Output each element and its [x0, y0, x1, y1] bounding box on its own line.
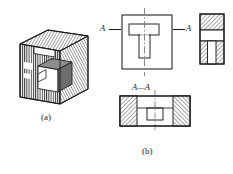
section-title-label: A—A	[132, 82, 150, 92]
front-view-tslot-head	[129, 24, 159, 35]
caption-ortho: (b)	[142, 146, 153, 156]
section-aa-right-wall	[173, 96, 190, 126]
iso-block	[20, 30, 88, 104]
isometric-view	[0, 0, 233, 174]
side-section-upper-band	[200, 14, 224, 30]
iso-highlight-b	[24, 73, 31, 79]
front-view	[122, 8, 172, 76]
side-section-view	[200, 14, 224, 64]
side-section-slot	[200, 30, 224, 41]
section-a-a-view	[120, 90, 190, 131]
section-marker-right-label: A	[186, 23, 191, 33]
section-marker-left-label: A	[100, 23, 105, 33]
section-aa-left-wall	[120, 96, 137, 126]
figure-canvas: A A A—A (a) (b)	[0, 0, 233, 174]
side-section-channel	[208, 41, 217, 64]
caption-iso: (a)	[41, 112, 51, 122]
